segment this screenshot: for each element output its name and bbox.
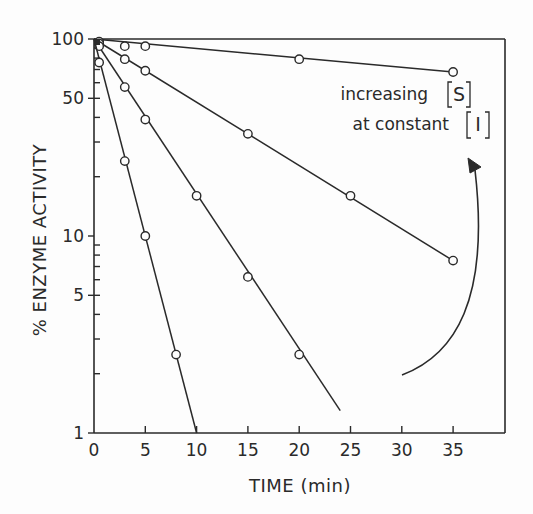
x-tick-label: 15 [237,440,259,460]
x-tick-label: 10 [186,440,208,460]
data-point-marker [244,130,252,138]
data-point-marker [244,273,252,281]
data-point-marker [121,55,129,63]
data-point-marker [141,115,149,123]
annotation-line1: increasing [341,84,428,104]
annotation: increasing S at constant I [341,82,489,375]
x-tick-label: 0 [89,440,100,460]
y-tick-label: 50 [62,88,84,108]
data-point-marker [141,42,149,50]
y-tick-label: 10 [62,226,84,246]
data-point-marker [95,58,103,66]
data-point-marker [121,157,129,165]
x-tick-label: 25 [340,440,362,460]
y-ticks [88,39,100,433]
x-tick-label: 35 [442,440,464,460]
data-point-marker [172,350,180,358]
x-tick-label: 20 [288,440,310,460]
x-axis-title: TIME (min) [248,475,351,496]
series-2 [94,39,457,265]
data-point-marker [141,67,149,75]
series-3 [94,39,340,411]
x-tick-labels: 05101520253035 [89,440,464,460]
data-point-marker [121,83,129,91]
origin-cluster-marker [94,39,100,45]
y-tick-label: 100 [52,29,84,49]
data-point-marker [449,68,457,76]
y-tick-label: 1 [73,423,84,443]
x-tick-label: 30 [391,440,413,460]
data-point-marker [346,192,354,200]
data-point-marker [295,55,303,63]
annotation-var-s: S [453,83,465,105]
arrowhead-icon [468,158,481,173]
curved-arrow-icon [402,170,478,375]
y-tick-label: 5 [73,285,84,305]
data-point-marker [295,350,303,358]
data-point-marker [141,232,149,240]
plot-frame [94,39,505,433]
chart-canvas: 05101520253035 151050100 TIME (min) % EN… [0,0,533,514]
y-axis-title: % ENZYME ACTIVITY [29,143,50,336]
data-point-marker [449,256,457,264]
series-4 [94,39,197,433]
annotation-var-i: I [475,113,481,135]
annotation-line2: at constant [353,114,450,134]
x-tick-label: 5 [140,440,151,460]
y-tick-labels: 151050100 [52,29,84,443]
data-point-marker [192,192,200,200]
x-ticks [145,426,453,433]
data-point-marker [121,42,129,50]
